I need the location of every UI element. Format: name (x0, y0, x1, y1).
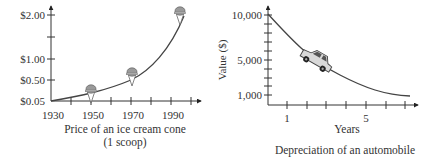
automobile-depreciation-chart: 10,000 5,000 1,000 Value ($) 1 5 Years D… (216, 6, 418, 157)
x-tick-label: 1970 (122, 109, 145, 121)
ice-cream-cone-icon (175, 7, 186, 25)
price-curve (51, 16, 184, 101)
x-tick-label: 1930 (42, 109, 65, 121)
x-axis-label: Years (334, 123, 360, 135)
y-tick-label: $0.05 (20, 95, 45, 107)
y-tick-label: $0.50 (20, 74, 45, 86)
car-icon (299, 44, 336, 74)
y-tick-label: $1.00 (20, 53, 45, 65)
y-tick-label: 1,000 (237, 89, 262, 101)
chart-subtitle: (1 scoop) (103, 136, 146, 149)
y-tick-label: 5,000 (237, 54, 262, 66)
y-axis-label: Value ($) (216, 39, 229, 80)
x-tick-label: 5 (363, 112, 369, 124)
charts-figure: $2.00 $1.00 $0.50 $0.05 1930 1950 1970 1… (0, 0, 436, 158)
value-curve (268, 14, 410, 96)
x-tick-label: 1990 (162, 109, 185, 121)
y-tick-label: $2.00 (20, 9, 45, 21)
y-tick-label: 10,000 (232, 9, 263, 21)
x-tick-label: 1950 (82, 109, 105, 121)
x-tick-label: 1 (284, 112, 290, 124)
chart-title: Depreciation of an automobile (275, 144, 415, 157)
ice-cream-price-chart: $2.00 $1.00 $0.50 $0.05 1930 1950 1970 1… (20, 6, 201, 149)
chart-title: Price of an ice cream cone (64, 123, 186, 135)
